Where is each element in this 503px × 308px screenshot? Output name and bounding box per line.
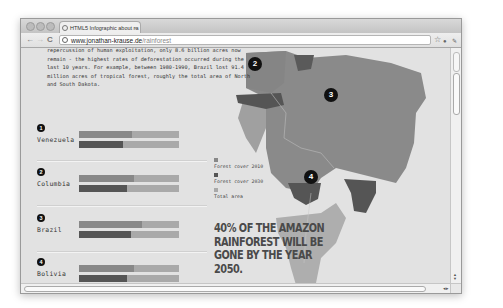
bookmark-star-icon[interactable]: ☆ bbox=[434, 34, 441, 46]
country-columbia: 2 Columbia bbox=[37, 168, 207, 208]
country-number-badge: 3 bbox=[37, 214, 45, 222]
intro-paragraph: repercussion of human exploitation, only… bbox=[47, 48, 252, 89]
legend-swatch bbox=[214, 173, 218, 177]
country-name: Venezuela bbox=[37, 136, 74, 144]
browser-toolbar: ← → C www.jonathan-krause.de/rainforest … bbox=[21, 33, 461, 48]
forest-2030-bar bbox=[79, 231, 179, 238]
reload-button[interactable]: C bbox=[47, 34, 53, 46]
title-bar: HTML5 Infographic about ra × bbox=[21, 19, 461, 34]
zoom-window-button[interactable] bbox=[46, 22, 55, 31]
scrollbar-track bbox=[453, 52, 460, 72]
country-name: Columbia bbox=[37, 180, 70, 188]
forest-2030-bar bbox=[79, 185, 179, 192]
wrench-icon[interactable]: ✎ bbox=[452, 35, 457, 47]
legend-swatch bbox=[214, 158, 218, 162]
page-menu-icon[interactable]: ● bbox=[443, 35, 447, 47]
country-brazil: 3 Brazil bbox=[37, 214, 207, 254]
divider bbox=[37, 205, 207, 207]
forest-2030-bar bbox=[79, 141, 179, 148]
country-venezuela: 1 Venezuela bbox=[37, 124, 207, 164]
globe-icon bbox=[62, 37, 68, 43]
browser-window: HTML5 Infographic about ra × ← → C www.j… bbox=[20, 18, 462, 294]
horizontal-scroll-thumb[interactable] bbox=[24, 286, 426, 292]
country-bolivia: 4 Bolivia bbox=[37, 258, 207, 283]
divider bbox=[37, 251, 207, 253]
forest-2010-bar bbox=[79, 175, 179, 182]
scroll-arrows-icon[interactable]: ◂▸ bbox=[443, 285, 449, 291]
url-domain: www.jonathan-krause.de bbox=[71, 37, 142, 44]
forest-2010-bar bbox=[79, 131, 179, 138]
country-number-badge: 1 bbox=[37, 124, 45, 132]
country-name: Bolivia bbox=[37, 270, 66, 278]
resize-corner[interactable] bbox=[450, 283, 461, 294]
scroll-arrows-icon[interactable]: ▲▼ bbox=[453, 273, 457, 281]
url-path: /rainforest bbox=[142, 37, 171, 44]
map-marker-3[interactable]: 3 bbox=[324, 88, 338, 102]
close-window-button[interactable] bbox=[26, 22, 35, 31]
country-number-badge: 2 bbox=[37, 168, 45, 176]
country-number-badge: 4 bbox=[37, 258, 45, 266]
tab-close-icon[interactable]: × bbox=[133, 22, 137, 33]
map-marker-4[interactable]: 4 bbox=[304, 170, 318, 184]
forward-button[interactable]: → bbox=[36, 34, 44, 46]
headline-statement: 40% OF THE AMAZON RAINFOREST WILL BE GON… bbox=[214, 221, 327, 275]
country-name: Brazil bbox=[37, 226, 62, 234]
legend-swatch bbox=[214, 188, 218, 192]
page-viewport: 2 3 4 repercussion of human exploitation… bbox=[21, 48, 451, 283]
horizontal-scrollbar[interactable]: ◂▸ bbox=[21, 283, 451, 293]
minimize-window-button[interactable] bbox=[36, 22, 45, 31]
forest-2010-bar bbox=[79, 221, 179, 228]
vertical-scrollbar[interactable]: ▲▼ bbox=[450, 48, 461, 283]
forest-2010-bar bbox=[79, 265, 179, 272]
back-button[interactable]: ← bbox=[26, 34, 34, 46]
vertical-scroll-thumb[interactable] bbox=[453, 73, 460, 115]
tab-rainforest[interactable]: HTML5 Infographic about ra × bbox=[59, 21, 141, 33]
address-bar[interactable]: www.jonathan-krause.de/rainforest bbox=[59, 35, 431, 45]
divider bbox=[37, 160, 207, 162]
forest-2030-bar bbox=[79, 275, 179, 282]
tab-title: HTML5 Infographic about ra bbox=[70, 25, 138, 31]
favicon-icon bbox=[62, 25, 68, 31]
